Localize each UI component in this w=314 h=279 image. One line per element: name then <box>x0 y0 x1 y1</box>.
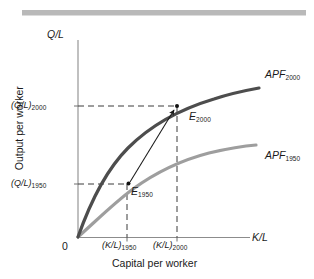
point-label-e-1950-base: E <box>131 185 138 197</box>
x-tick-label-2000: (K/L)2000 <box>153 241 187 250</box>
growth-arrow <box>130 110 174 182</box>
y-tick-label-1950: (Q/L)1950 <box>11 179 46 188</box>
curve-label-apf-2000-subscript: 2000 <box>285 74 300 81</box>
curve-label-apf-1950: APF1950 <box>265 150 300 161</box>
point-label-e-2000-base: E <box>189 110 196 122</box>
y-tick-label-1950-subscript: 1950 <box>32 182 47 189</box>
curve-apf-1950 <box>78 145 256 237</box>
top-rule <box>22 10 306 16</box>
y-tick-label-2000-subscript: 2000 <box>32 104 47 111</box>
curve-label-apf-1950-subscript: 1950 <box>285 155 300 162</box>
point-label-e-2000-subscript: 2000 <box>196 116 211 123</box>
figure-root: Q/L K/L Output per worker Capital per wo… <box>0 0 314 279</box>
curve-label-apf-2000: APF2000 <box>265 69 300 80</box>
x-tick-label-1950: (K/L)1950 <box>102 241 136 250</box>
x-axis-symbol-label: K/L <box>252 232 268 243</box>
curve-label-apf-1950-base: APF <box>265 149 285 161</box>
origin-label: 0 <box>62 241 68 252</box>
x-tick-label-2000-base: (K/L) <box>153 240 173 250</box>
y-tick-label-2000-base: (Q/L) <box>11 100 32 110</box>
x-tick-label-1950-base: (K/L) <box>102 240 122 250</box>
y-axis-title: Output per worker <box>14 80 25 176</box>
x-tick-label-1950-subscript: 1950 <box>122 244 137 251</box>
point-marker-e2000 <box>175 104 179 108</box>
x-tick-label-2000-subscript: 2000 <box>173 244 188 251</box>
point-label-e-1950-subscript: 1950 <box>138 191 153 198</box>
y-tick-label-1950-base: (Q/L) <box>11 178 32 188</box>
point-marker-e1950 <box>127 182 131 186</box>
point-label-e-2000: E2000 <box>189 111 211 122</box>
x-axis-title: Capital per worker <box>112 258 197 269</box>
y-axis-symbol-label: Q/L <box>47 29 64 40</box>
curve-label-apf-2000-base: APF <box>265 68 285 80</box>
y-tick-label-2000: (Q/L)2000 <box>11 101 46 110</box>
curve-apf-2000 <box>78 88 259 237</box>
point-label-e-1950: E1950 <box>131 186 153 197</box>
